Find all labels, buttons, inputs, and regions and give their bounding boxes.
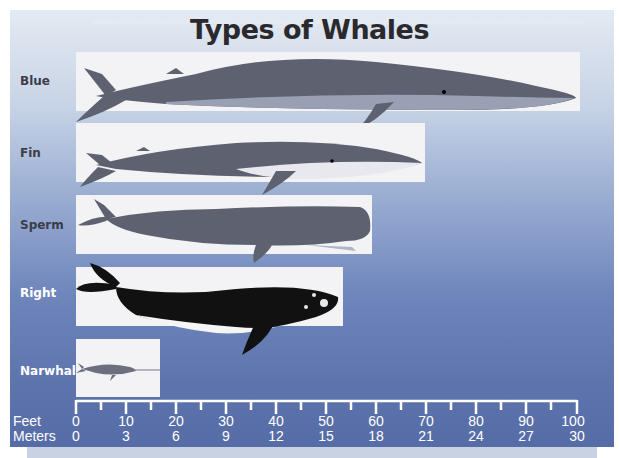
- blue-whale-icon: [76, 52, 580, 132]
- tick-feet: 0: [61, 414, 91, 428]
- tick-meters: 3: [111, 429, 141, 443]
- tick-feet: 10: [111, 414, 141, 428]
- tick-feet: 100: [558, 414, 588, 428]
- tick-meters: 27: [511, 429, 541, 443]
- chart-title: Types of Whales: [0, 14, 619, 45]
- bottom-shadow-strip: [27, 447, 597, 458]
- tick-meters: 21: [411, 429, 441, 443]
- row-label-blue: Blue: [20, 74, 50, 88]
- bar-blue: [76, 52, 580, 111]
- tick-feet: 90: [511, 414, 541, 428]
- axis-label-feet: Feet: [13, 414, 41, 428]
- tick-meters: 15: [311, 429, 341, 443]
- bar-right: [76, 267, 343, 326]
- tick-meters: 9: [211, 429, 241, 443]
- tick-meters: 18: [361, 429, 391, 443]
- narwhal-icon: [76, 339, 160, 397]
- tick-feet: 80: [461, 414, 491, 428]
- tick-meters: 6: [161, 429, 191, 443]
- bar-narwhal: [76, 339, 160, 397]
- tick-meters: 30: [562, 429, 592, 443]
- tick-feet: 40: [261, 414, 291, 428]
- tick-feet: 70: [411, 414, 441, 428]
- tick-meters: 12: [261, 429, 291, 443]
- tick-feet: 30: [211, 414, 241, 428]
- tick-meters: 24: [461, 429, 491, 443]
- sperm-whale-icon: [76, 195, 372, 265]
- bar-sperm: [76, 195, 372, 254]
- tick-meters: 0: [61, 429, 91, 443]
- row-label-fin: Fin: [20, 146, 41, 160]
- row-label-narwhal: Narwhal: [20, 364, 76, 378]
- tick-feet: 50: [311, 414, 341, 428]
- fin-whale-icon: [76, 123, 425, 203]
- bar-fin: [76, 123, 425, 182]
- row-label-sperm: Sperm: [20, 218, 64, 232]
- axis-label-meters: Meters: [13, 429, 56, 443]
- tick-feet: 20: [161, 414, 191, 428]
- row-label-right: Right: [20, 286, 56, 300]
- tick-feet: 60: [361, 414, 391, 428]
